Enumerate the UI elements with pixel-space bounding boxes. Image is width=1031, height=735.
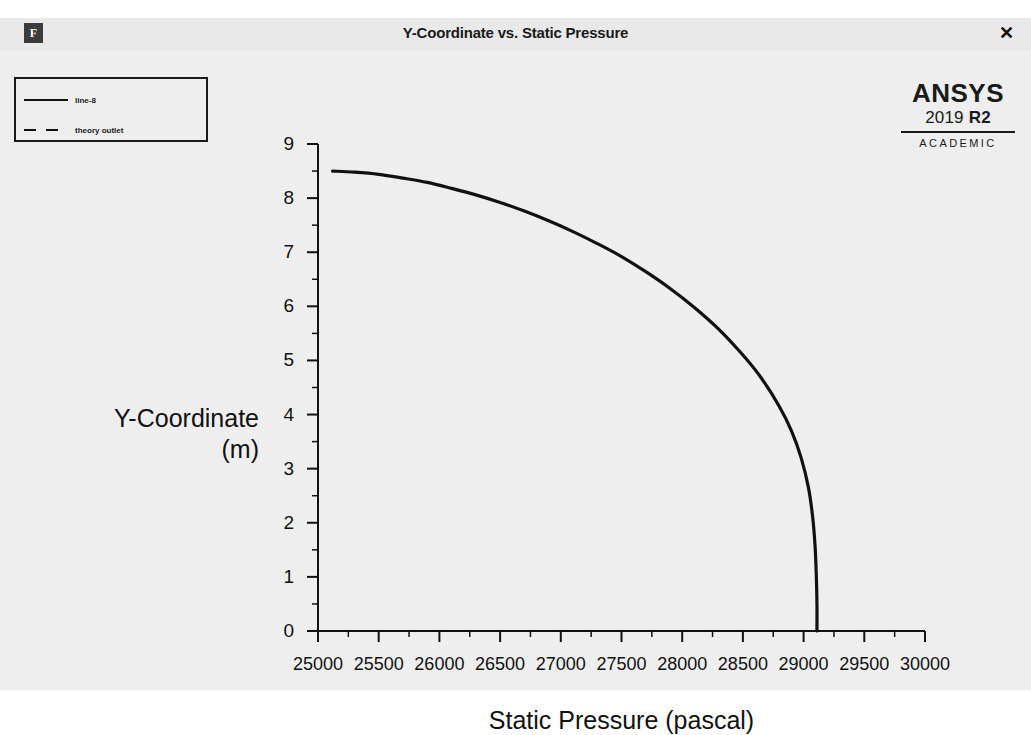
x-tick-label: 30000 <box>887 655 963 673</box>
x-axis-title: Static Pressure (pascal) <box>318 706 925 735</box>
y-tick-label: 9 <box>256 134 294 153</box>
y-tick-label: 6 <box>256 296 294 315</box>
plot-window: F Y-Coordinate vs. Static Pressure ✕ lin… <box>0 18 1031 690</box>
plot-canvas-container: line-8 theory outlet ANSYS 2019 R2 ACADE… <box>0 51 1031 690</box>
y-tick-label: 3 <box>256 459 294 478</box>
chart-plot: 0123456789250002550026000265002700027500… <box>0 51 1031 690</box>
y-tick-label: 0 <box>256 621 294 640</box>
chart-svg <box>0 51 1031 690</box>
series-line <box>333 171 817 631</box>
y-tick-label: 8 <box>256 188 294 207</box>
y-tick-label: 7 <box>256 242 294 261</box>
y-tick-label: 1 <box>256 567 294 586</box>
page-title: Y-Coordinate vs. Static Pressure <box>0 24 1031 41</box>
window-title-bar: F Y-Coordinate vs. Static Pressure ✕ <box>0 18 1031 51</box>
y-tick-label: 4 <box>256 405 294 424</box>
y-tick-label: 2 <box>256 513 294 532</box>
y-tick-label: 5 <box>256 350 294 369</box>
close-icon[interactable]: ✕ <box>995 21 1017 45</box>
